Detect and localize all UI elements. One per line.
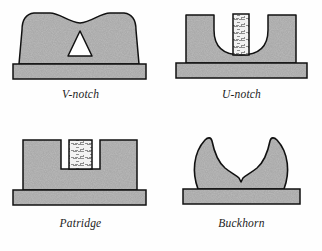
caption-patridge: Patridge (0, 217, 161, 229)
patridge-center-post (69, 140, 92, 169)
caption-buckhorn: Buckhorn (161, 217, 322, 229)
patridge-drawing (0, 125, 161, 220)
caption-v-notch: V-notch (0, 88, 161, 100)
v-notch-base-plate (13, 64, 146, 79)
sight-notch-figure: V-notch U-notch (0, 0, 322, 251)
patridge-base-plate (13, 190, 146, 205)
u-notch-center-post (233, 14, 249, 55)
buckhorn-base-plate (183, 189, 300, 204)
u-notch-drawing (161, 0, 322, 95)
u-notch-base-plate (176, 63, 307, 78)
buckhorn-drawing (161, 125, 322, 220)
caption-u-notch: U-notch (161, 88, 322, 100)
panel-patridge: Patridge (0, 125, 161, 251)
panel-buckhorn: Buckhorn (161, 125, 322, 251)
panel-v-notch: V-notch (0, 0, 161, 125)
panel-u-notch: U-notch (161, 0, 322, 125)
buckhorn-blade (194, 138, 287, 189)
v-notch-drawing (0, 0, 161, 95)
